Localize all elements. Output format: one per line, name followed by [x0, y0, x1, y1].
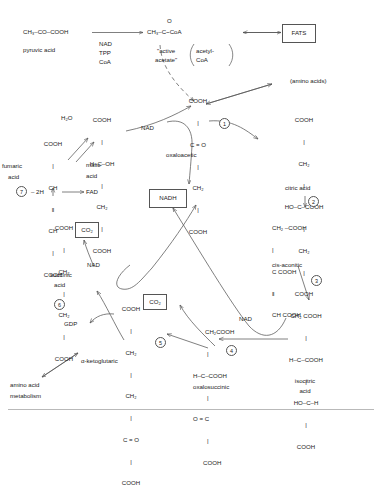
fumaric-bond-1: ‖ [31, 207, 75, 217]
nadh-box[interactable]: NADH [149, 189, 187, 208]
oxaloacetic-structure: COOH | C = O | CH₂ | COOH [176, 86, 220, 245]
step-1-marker[interactable]: 1 [219, 118, 230, 129]
fumaric-bond-2: | [31, 250, 75, 260]
fumaric-row-0: COOH [31, 141, 75, 151]
oxalosuccinic-row-0: CH₂COOH [193, 329, 271, 339]
isocitric-bond-0: | [268, 335, 344, 345]
akg-row-3: C = O [109, 437, 153, 447]
citric-row-1: CH₂ [262, 161, 346, 171]
acetyl-coa-formula: CH₃–C~CoA [147, 29, 182, 35]
water-label: H₂O [61, 115, 73, 121]
fumaric-bond-0: | [31, 163, 75, 173]
co2-label-1: CO₂ [81, 227, 93, 233]
isocitric-bond-2: | [268, 422, 344, 432]
oxalosuccinic-row-1: H–C–COOH [193, 373, 271, 383]
alpha-ketoglutaric-label: α-ketoglutaric [81, 358, 118, 364]
fumaric-label-line1: fumaric [2, 163, 22, 169]
oxaloacetic-bond-1: | [176, 164, 220, 174]
amino-acid-metabolism-line2: metabolism [10, 393, 41, 399]
cofactor-nad-label: NAD [99, 41, 112, 47]
oxaloacetic-row-3: COOH [176, 229, 220, 239]
isocitric-label-line2: acid [285, 388, 325, 394]
cis-aconitic-row-0: CH₂ –COOH [272, 225, 338, 235]
cis-aconitic-bond-0: | [272, 247, 338, 257]
alpha-ketoglutaric-structure: COOH | CH₂ | CH₂ | C = O | COOH [109, 294, 153, 489]
citric-acid-label: citric acid [285, 185, 310, 191]
succinic-bond-2: | [42, 334, 86, 344]
nad-malate-label: NAD [141, 125, 154, 131]
step-2-label: 2 [312, 199, 315, 205]
fumaric-row-3: COOH [31, 272, 75, 282]
amino-acid-metabolism-line1: amino acid [10, 382, 39, 388]
oxalosuccinic-bond-2: | [193, 438, 271, 448]
fumaric-label-line2: acid [8, 174, 19, 180]
active-acetate-line2: acetate" [155, 57, 177, 63]
step-7-marker[interactable]: 7 [16, 186, 27, 197]
malic-structure: COOH | H–C–OH | CH₂ | COOH [78, 105, 126, 264]
step-2-marker[interactable]: 2 [308, 196, 319, 207]
nadh-label: NADH [159, 195, 176, 201]
akg-row-2: CH₂ [109, 393, 153, 403]
cofactor-coa-label: CoA [99, 59, 111, 65]
akg-bond-2: | [109, 415, 153, 425]
acetyl-coa-parentheses [188, 43, 238, 67]
akg-bond-1: | [109, 372, 153, 382]
step-3-label: 3 [315, 278, 318, 284]
step-3-marker[interactable]: 3 [311, 275, 322, 286]
malic-row-2: CH₂ [78, 204, 126, 214]
oxaloacetic-label: oxaloacetic [166, 152, 197, 158]
malic-label-line1: malic [86, 162, 100, 168]
isocitric-row-0: CH₂ COOH [268, 313, 344, 323]
malic-bond-0: | [78, 139, 126, 149]
oxalosuccinic-row-3: COOH [193, 460, 271, 470]
gdp-label: GDP [64, 321, 77, 327]
amino-acids-label: (amino acids) [290, 78, 327, 84]
step-4-label: 4 [230, 348, 233, 354]
malic-row-3: COOH [78, 248, 126, 258]
co2-label-2: CO₂ [149, 299, 161, 305]
oxalosuccinic-structure: CH₂COOH | H–C–COOH | O = C | COOH [193, 317, 271, 476]
bottom-divider [8, 409, 374, 410]
fad-label: FAD [86, 189, 98, 195]
oxaloacetic-bond-0: | [176, 120, 220, 130]
cis-aconitic-bond-1: ‖ [272, 291, 338, 301]
oxalosuccinic-label: oxalosuccinic [193, 384, 229, 390]
co2-box-succinate[interactable]: CO₂ [75, 222, 99, 238]
acetyl-coa-oxygen: O [167, 18, 172, 24]
akg-bond-3: | [109, 459, 153, 469]
isocitric-row-3: COOH [268, 444, 344, 454]
oxaloacetic-row-1: C = O [176, 142, 220, 152]
step-6-marker[interactable]: 6 [54, 299, 65, 310]
malic-label-line2: acid [86, 173, 97, 179]
active-acetate-line1: "active [157, 48, 175, 54]
fats-label: FATS [292, 30, 307, 36]
oxalosuccinic-bond-1: | [193, 395, 271, 405]
fats-box[interactable]: FATS [282, 24, 316, 43]
minus-2h-label: – 2H [31, 189, 44, 195]
pyruvic-acid-label: pyruvic acid [23, 47, 55, 53]
cofactor-tpp-label: TPP [99, 50, 111, 56]
step-4-marker[interactable]: 4 [226, 345, 237, 356]
isocitric-label-line1: isocitric [285, 378, 325, 384]
akg-bond-0: | [109, 328, 153, 338]
nad-isocitrate-label: NAD [239, 316, 252, 322]
akg-row-4: COOH [109, 480, 153, 489]
pyruvic-acid-formula: CH₃–CO–COOH [23, 29, 68, 35]
citric-bond-0: | [262, 139, 346, 149]
step-6-label: 6 [58, 302, 61, 308]
step-5-marker[interactable]: 5 [155, 337, 166, 348]
nad-succinate-label: NAD [87, 262, 100, 268]
step-5-label: 5 [159, 340, 162, 346]
cis-aconitic-label: cis-aconitic [272, 262, 302, 268]
cis-aconitic-row-1: C COOH [272, 269, 338, 279]
fumaric-structure: COOH | CH ‖ CH | COOH [31, 129, 75, 288]
succinic-bond-1: | [42, 291, 86, 301]
isocitric-row-1: H–C–COOH [268, 357, 344, 367]
succinic-row-3: COOH [42, 356, 86, 366]
co2-box-oxalosuccinate[interactable]: CO₂ [143, 294, 167, 310]
oxaloacetic-bond-2: | [176, 207, 220, 217]
step-1-label: 1 [223, 121, 226, 127]
oxalosuccinic-row-2: O = C [193, 416, 271, 426]
citric-row-0: COOH [262, 117, 346, 127]
step-7-label: 7 [20, 189, 23, 195]
